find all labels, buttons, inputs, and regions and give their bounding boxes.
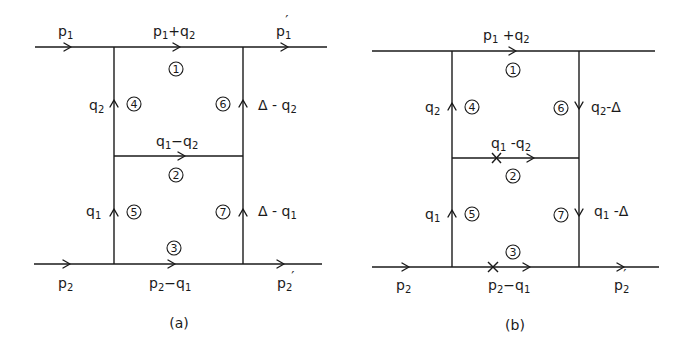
svg-text:7: 7 — [220, 206, 227, 219]
label-p2: p2 — [58, 275, 73, 293]
label-delta-minus-q2: Δ - q2 — [258, 97, 297, 115]
circled-number-6: 6 — [554, 101, 568, 115]
svg-text:5: 5 — [469, 208, 476, 221]
circled-number-2: 2 — [506, 169, 520, 183]
svg-text:1: 1 — [173, 63, 180, 76]
circled-number-1: 1 — [169, 62, 183, 76]
circled-number-3: 3 — [167, 241, 181, 255]
circled-number-4: 4 — [465, 100, 479, 114]
circled-number-1: 1 — [506, 63, 520, 77]
panel-a: p1 p1′ p1+q2 q1−q2 p2 p2−q1 p2′ q2 q1 Δ … — [34, 12, 327, 331]
caption-b: (b) — [505, 317, 525, 333]
label-q1-minus-q2: q1−q2 — [156, 133, 198, 151]
panel-b: p1 +q2 q1 -q2 p2 p2−q1 p2′ q2 q1 q2-Δ q1… — [372, 27, 659, 333]
circled-number-7: 7 — [216, 205, 230, 219]
label-p2: p2 — [396, 277, 411, 295]
svg-text:3: 3 — [171, 242, 178, 255]
caption-a: (a) — [169, 315, 189, 331]
label-q2-left: q2 — [89, 97, 104, 115]
label-p2-prime: p2′ — [614, 266, 629, 295]
label-q1-left: q1 — [425, 206, 440, 224]
svg-text:1: 1 — [510, 64, 517, 77]
svg-text:4: 4 — [469, 101, 476, 114]
circled-number-7: 7 — [554, 208, 568, 222]
svg-text:7: 7 — [558, 209, 565, 222]
circled-number-2: 2 — [169, 168, 183, 182]
label-p1: p1 — [58, 23, 73, 41]
label-p2-prime: p2′ — [277, 268, 294, 293]
label-q2-left: q2 — [425, 99, 440, 117]
circled-number-4: 4 — [127, 97, 141, 111]
circled-number-6: 6 — [216, 97, 230, 111]
circled-number-5: 5 — [127, 205, 141, 219]
feynman-diagrams-figure: p1 p1′ p1+q2 q1−q2 p2 p2−q1 p2′ q2 q1 Δ … — [0, 0, 685, 358]
label-q1-minus-q2: q1 -q2 — [491, 135, 531, 153]
svg-text:3: 3 — [510, 246, 517, 259]
svg-text:4: 4 — [131, 98, 138, 111]
label-q1-left: q1 — [86, 203, 101, 221]
svg-text:6: 6 — [558, 102, 565, 115]
label-p2-minus-q1: p2−q1 — [149, 275, 191, 293]
svg-text:6: 6 — [220, 98, 227, 111]
label-p1-prime: p1′ — [276, 12, 291, 41]
label-p1-plus-q2: p1 +q2 — [483, 27, 530, 45]
circled-number-5: 5 — [465, 207, 479, 221]
label-delta-minus-q1: Δ - q1 — [258, 203, 297, 221]
svg-text:5: 5 — [131, 206, 138, 219]
label-p2-minus-q1: p2−q1 — [488, 277, 530, 295]
svg-text:2: 2 — [510, 170, 517, 183]
label-p1-plus-q2: p1+q2 — [153, 23, 195, 41]
svg-text:2: 2 — [173, 169, 180, 182]
label-q2-minus-delta: q2-Δ — [591, 99, 621, 117]
circled-number-3: 3 — [506, 245, 520, 259]
label-q1-minus-delta: q1 -Δ — [594, 203, 629, 221]
